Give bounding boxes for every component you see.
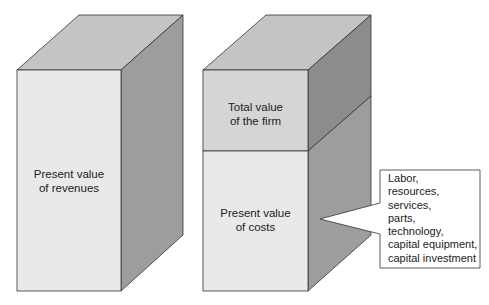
costs-label: Present value of costs (203, 206, 308, 234)
costs-label-line-2: of costs (203, 220, 308, 234)
callout-item: resources, (388, 185, 477, 198)
revenues-label-line-2: of revenues (17, 181, 121, 195)
callout-item: technology, (388, 225, 477, 238)
costs-label-line-1: Present value (203, 206, 308, 220)
costs-firm-block (203, 15, 371, 291)
callout-item: capital investment (388, 252, 477, 265)
callout-cost-items: Labor, resources, services, parts, techn… (388, 172, 477, 265)
revenues-label-line-1: Present value (17, 167, 121, 181)
firm-value-label-line-1: Total value (203, 100, 308, 114)
firm-value-diagram: Present value of revenues Total value of… (0, 0, 489, 305)
callout-item: capital equipment, (388, 238, 477, 251)
revenues-block (17, 15, 183, 291)
firm-value-label-line-2: of the firm (203, 114, 308, 128)
callout-item: services, (388, 199, 477, 212)
callout-item: parts, (388, 212, 477, 225)
revenues-label: Present value of revenues (17, 167, 121, 195)
callout-item: Labor, (388, 172, 477, 185)
firm-value-label: Total value of the firm (203, 100, 308, 128)
